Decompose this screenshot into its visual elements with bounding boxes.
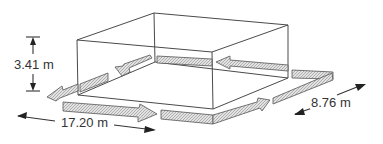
flow-band-back-left xyxy=(157,56,212,66)
flow-arrow-back-left-pointing xyxy=(216,56,288,71)
arrowhead-upright-icon xyxy=(355,84,366,91)
length-label: 17.20 m xyxy=(60,116,109,129)
box-top-face xyxy=(77,13,288,52)
box-edge-back-left xyxy=(154,13,155,62)
flow-arrow-right-side xyxy=(213,98,270,124)
arrowhead-downleft-icon xyxy=(294,108,305,115)
diagram-canvas xyxy=(0,0,383,144)
height-label: 3.41 m xyxy=(13,58,55,71)
arrowhead-up-icon xyxy=(30,37,36,45)
flow-arrow-front-left xyxy=(47,84,78,101)
width-label: 8.76 m xyxy=(310,96,352,109)
arrowhead-left-icon xyxy=(17,112,27,119)
arrowhead-right-icon xyxy=(144,126,156,133)
box-flow-diagram: 3.41 m 17.20 m 8.76 m xyxy=(0,0,383,144)
flow-band-left-side xyxy=(80,73,108,92)
flow-band-front-right xyxy=(161,110,213,124)
arrowhead-down-icon xyxy=(30,83,36,91)
